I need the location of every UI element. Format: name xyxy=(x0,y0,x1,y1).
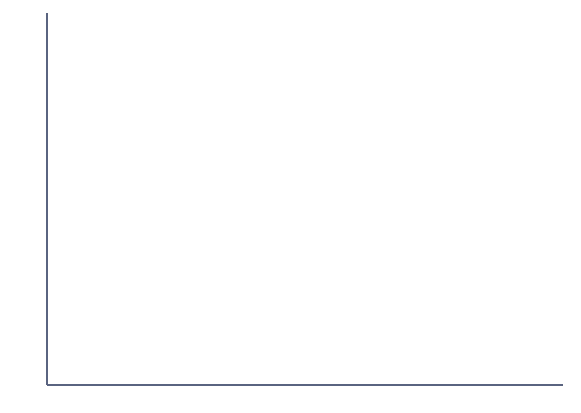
chart-container xyxy=(0,0,581,413)
plot-background xyxy=(47,13,563,385)
fatalities-area-chart xyxy=(0,0,581,413)
